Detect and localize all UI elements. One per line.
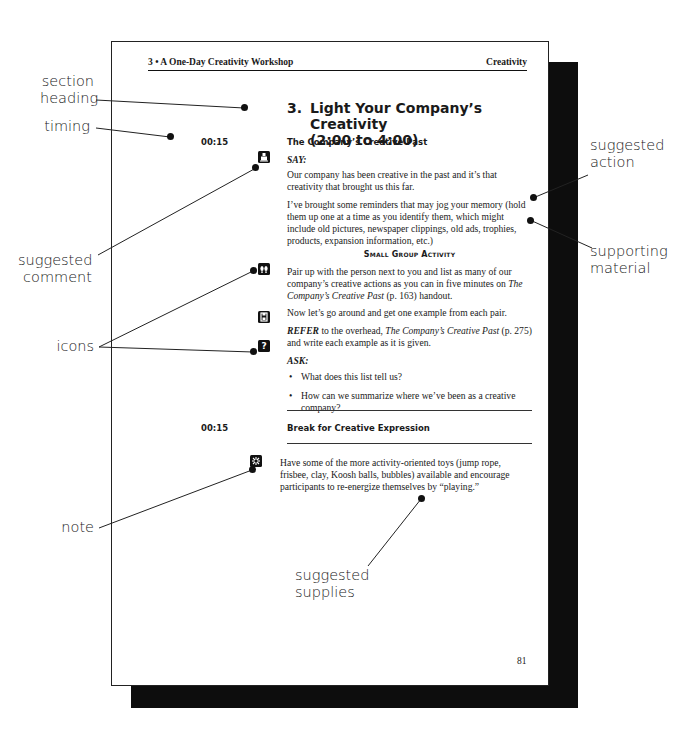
question-glyph: ? bbox=[261, 342, 266, 351]
annotation-dot bbox=[249, 466, 256, 473]
annotation-suggested-supplies: suggested supplies bbox=[295, 567, 369, 601]
chapter-title: 3 • A One-Day Creativity Workshop bbox=[148, 57, 293, 67]
annotation-text: action bbox=[590, 154, 664, 171]
divider-rule bbox=[287, 443, 532, 444]
annotation-dot bbox=[167, 133, 174, 140]
refer-cue: REFER bbox=[287, 325, 319, 336]
section-number: 3. bbox=[287, 100, 302, 116]
divider-rule bbox=[287, 410, 532, 411]
annotation-note: note bbox=[40, 519, 94, 536]
projector-icon bbox=[258, 311, 270, 323]
annotation-dot bbox=[527, 217, 534, 224]
timing-block1: 00:15 bbox=[201, 137, 228, 147]
paragraph-say: Our company has been creative in the pas… bbox=[287, 169, 532, 193]
annotation-text: icons bbox=[40, 338, 94, 355]
annotation-suggested-comment: suggested comment bbox=[18, 252, 92, 286]
overhead-title: The Company’s Creative Past bbox=[385, 325, 499, 336]
activity-heading: Small Group Activity bbox=[287, 250, 532, 259]
speaker-icon bbox=[258, 151, 270, 163]
running-header: 3 • A One-Day Creativity Workshop Creati… bbox=[148, 57, 527, 71]
paragraph-go-around: Now let’s go around and get one example … bbox=[287, 307, 532, 319]
refer-text: to the overhead, bbox=[319, 325, 385, 336]
paragraph-reminders: I’ve brought some reminders that may jog… bbox=[287, 199, 532, 247]
subheading-break: Break for Creative Expression bbox=[287, 423, 430, 433]
annotation-section-heading: section heading bbox=[40, 73, 94, 107]
paragraph-break: Have some of the more activity-oriented … bbox=[280, 457, 530, 493]
annotation-text: section bbox=[40, 73, 94, 90]
annotation-text: suggested bbox=[590, 137, 664, 154]
annotation-dot bbox=[252, 164, 259, 171]
annotation-dot bbox=[418, 495, 425, 502]
annotation-text: supplies bbox=[295, 584, 369, 601]
annotation-text: note bbox=[40, 519, 94, 536]
subheading-creative-past: The Company’s Creative Past bbox=[287, 137, 427, 147]
paragraph-pair-up: Pair up with the person next to you and … bbox=[287, 266, 532, 302]
annotation-dot bbox=[241, 104, 248, 111]
annotation-text: heading bbox=[40, 90, 94, 107]
section-title-line1: Light Your Company’s Creativity bbox=[310, 100, 530, 132]
annotation-text: suggested bbox=[295, 567, 369, 584]
ask-cue: ASK: bbox=[287, 355, 308, 366]
annotation-timing: timing bbox=[30, 118, 90, 135]
annotation-dot bbox=[250, 267, 257, 274]
annotation-icons: icons bbox=[40, 338, 94, 355]
annotation-text: suggested bbox=[18, 252, 92, 269]
footprints-icon bbox=[258, 263, 270, 275]
annotation-text: material bbox=[590, 260, 668, 277]
timing-block2: 00:15 bbox=[201, 423, 228, 433]
annotation-supporting-material: supporting material bbox=[590, 243, 668, 277]
annotation-text: comment bbox=[18, 269, 92, 286]
question-icon: ? bbox=[258, 340, 270, 352]
say-cue: SAY: bbox=[287, 154, 306, 165]
annotation-suggested-action: suggested action bbox=[590, 137, 664, 171]
question-item: What does this list tell us? bbox=[287, 371, 532, 383]
pair-up-text-end: (p. 163) handout. bbox=[384, 290, 452, 301]
question-list: What does this list tell us? How can we … bbox=[287, 371, 532, 421]
pair-up-text: Pair up with the person next to you and … bbox=[287, 266, 512, 289]
annotation-dot bbox=[530, 194, 537, 201]
annotation-text: supporting bbox=[590, 243, 668, 260]
annotation-text: timing bbox=[30, 118, 90, 135]
annotation-dot bbox=[250, 348, 257, 355]
section-tag: Creativity bbox=[486, 57, 527, 67]
paragraph-refer: REFER to the overhead, The Company’s Cre… bbox=[287, 325, 532, 349]
page-number: 81 bbox=[517, 656, 527, 666]
